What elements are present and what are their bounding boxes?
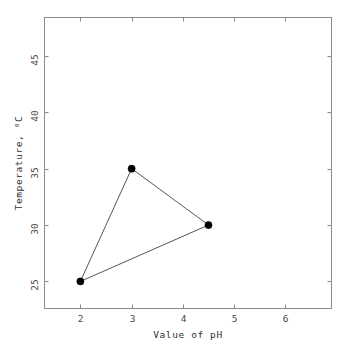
y-tick-label-35: 35 [29,167,40,178]
data-point-0 [77,278,84,285]
y-tick-label-40: 40 [29,110,40,122]
y-axis-title: Temperature, ⁰C [13,116,24,211]
ph-temperature-scatter-line-chart: 23456 2530354045 Value of pH Temperature… [0,0,347,350]
chart-container: 23456 2530354045 Value of pH Temperature… [0,0,347,350]
x-tick-label-3: 3 [130,313,136,324]
x-tick-label-5: 5 [232,313,238,324]
y-tick-label-25: 25 [29,279,40,290]
x-tick-label-6: 6 [283,313,289,324]
x-tick-label-4: 4 [181,313,187,324]
data-point-2 [205,221,212,228]
x-axis-title: Value of pH [153,329,223,340]
x-tick-label-2: 2 [78,313,84,324]
y-tick-label-30: 30 [29,223,40,235]
y-tick-label-45: 45 [29,54,40,65]
data-point-1 [128,165,135,172]
